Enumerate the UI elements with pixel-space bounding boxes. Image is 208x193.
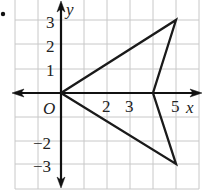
- y-axis-label: y: [64, 0, 74, 19]
- y-tick-neg3: −3: [33, 157, 51, 176]
- y-tick-1: 1: [46, 61, 55, 80]
- y-tick-3: 3: [46, 13, 55, 32]
- bullet-dot: [1, 12, 5, 16]
- origin-label: O: [43, 99, 55, 118]
- x-tick-3: 3: [125, 97, 134, 116]
- x-tick-2: 2: [102, 97, 111, 116]
- x-axis-label: x: [185, 98, 194, 117]
- coordinate-plane: y x O 3 2 1 −2 −3 2 3 5: [0, 0, 208, 193]
- y-tick-neg2: −2: [33, 134, 51, 153]
- x-tick-5: 5: [171, 97, 180, 116]
- y-tick-2: 2: [46, 37, 55, 56]
